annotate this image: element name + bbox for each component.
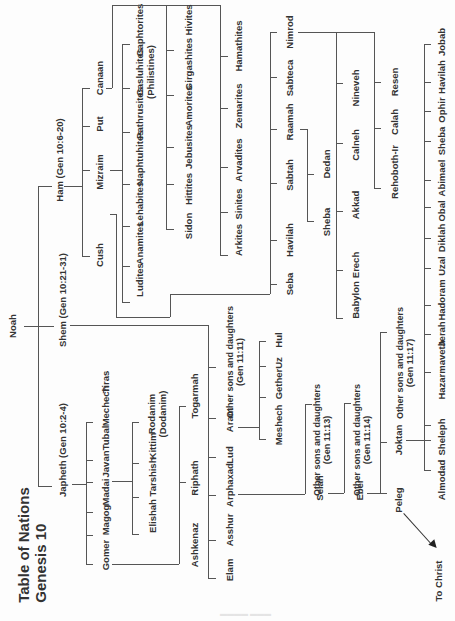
node-jobab: Jobab	[437, 28, 448, 56]
connector	[112, 5, 113, 88]
connector	[259, 439, 266, 440]
connector	[424, 82, 431, 83]
connector	[208, 457, 216, 458]
connector	[270, 183, 277, 184]
selah-other-line1: Other sons and daughters	[312, 384, 322, 496]
connector	[259, 366, 266, 367]
node-elishah: Elishah	[148, 499, 159, 533]
node-shem-other: Other sons and daughters (Gen 11:11)	[225, 306, 246, 418]
connector	[86, 422, 87, 564]
connector	[208, 367, 216, 368]
joktan-other-line2: (Gen 11:17)	[405, 307, 415, 419]
connector	[132, 497, 139, 498]
connector	[122, 226, 130, 227]
connector	[166, 95, 174, 96]
eber-other-line2: (Gen 11:14)	[362, 384, 372, 496]
node-zemarites: Zemarites	[234, 84, 245, 129]
connector	[424, 44, 425, 470]
connector	[82, 88, 90, 89]
shem-other-line1: Other sons and daughters	[225, 306, 235, 418]
node-jerah: Jerah	[437, 321, 448, 346]
connector	[122, 44, 130, 45]
connector	[336, 83, 343, 84]
connector	[270, 240, 277, 241]
connector	[38, 486, 52, 487]
connector	[374, 128, 381, 129]
connector	[270, 32, 271, 294]
connector	[424, 44, 431, 45]
connector	[38, 186, 39, 486]
connector	[336, 143, 343, 144]
connector	[424, 334, 431, 335]
node-eber-other: Other sons and daughters (Gen 11:14)	[352, 384, 373, 496]
node-hazarmaveth: Hazarmaveth	[437, 340, 448, 399]
node-babylon: Babylon	[351, 281, 362, 318]
connector	[166, 5, 167, 229]
connector	[72, 484, 86, 485]
rodanim-label: Rodanim	[146, 394, 157, 435]
node-caphtorites: Caphtorites	[135, 4, 146, 57]
connector	[170, 294, 171, 317]
node-amorites: Amorites	[184, 85, 195, 126]
connector	[86, 564, 93, 565]
node-japheth: Japheth (Gen 10:2-4)	[58, 403, 69, 497]
node-obal: Obal	[437, 200, 448, 221]
node-javan: Javan	[101, 451, 112, 478]
node-riphath: Riphath	[190, 460, 201, 495]
node-dedan: Dedan	[322, 149, 333, 178]
connector	[328, 493, 344, 494]
connector	[220, 167, 228, 168]
table-of-nations-diagram: Table of Nations Genesis 10 Noah Ham (Ge…	[0, 0, 455, 621]
connector	[132, 534, 139, 535]
node-tiras: Tiras	[101, 371, 112, 394]
connector	[336, 211, 343, 212]
connector	[238, 494, 305, 495]
connector	[367, 493, 380, 494]
connector	[132, 422, 133, 534]
connector	[374, 82, 381, 83]
node-arkites: Arkites	[234, 224, 245, 256]
node-rehoboth-ir: Rehoboth-Ir	[390, 145, 401, 199]
node-almodad: Almodad	[437, 460, 448, 501]
connector	[220, 255, 228, 256]
node-arphaxad: Arphaxad	[225, 463, 236, 507]
node-hivites: Hivites	[184, 4, 195, 35]
bleed-through-text: ▬▬▬▬ ▬▬▬	[220, 610, 271, 617]
node-ham: Ham (Gen 10:6-20)	[55, 118, 66, 201]
node-canaan: Canaan	[95, 61, 106, 95]
connector	[307, 221, 314, 222]
node-rodanim: Rodanim (Dodanim)	[147, 391, 169, 438]
philistines-note: (Philistines)	[146, 45, 157, 99]
connector	[220, 56, 228, 57]
node-cush: Cush	[95, 243, 106, 267]
connector	[336, 270, 343, 271]
node-jebusites: Jebusites	[184, 125, 195, 169]
node-nimrod: Nimrod	[285, 15, 296, 48]
node-lud: Lud	[225, 446, 236, 463]
connector	[380, 442, 387, 443]
node-sidon: Sidon	[184, 213, 195, 239]
node-havilah-cush: Havilah	[285, 223, 296, 257]
connector	[270, 32, 277, 33]
connector	[112, 564, 179, 565]
node-ashkenaz: Ashkenaz	[190, 523, 201, 567]
node-uzal: Uzal	[437, 256, 448, 276]
node-sheleph: Sheleph	[437, 419, 448, 456]
connector	[307, 174, 314, 175]
node-ophir: Ophir	[437, 97, 448, 122]
connector	[82, 88, 83, 256]
connector	[24, 326, 54, 327]
node-calah: Calah	[390, 109, 401, 135]
node-lehabites: Lehabites	[135, 182, 146, 226]
connector	[166, 229, 174, 230]
node-joktan: Joktan	[394, 425, 405, 456]
connector	[336, 32, 337, 318]
connector	[166, 184, 174, 185]
connector	[82, 126, 90, 127]
node-asshur: Asshur	[225, 514, 236, 547]
connector	[336, 318, 343, 319]
connector	[344, 403, 345, 493]
node-tubal: Tubal	[101, 426, 112, 451]
node-diklah: Diklah	[437, 224, 448, 253]
connector	[424, 111, 431, 112]
